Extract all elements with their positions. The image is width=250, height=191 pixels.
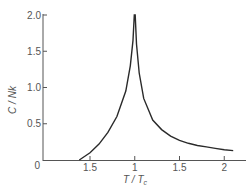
y-tick-label: 0.5 xyxy=(27,118,41,129)
y-ticks: 00.51.01.52.0 xyxy=(27,10,47,172)
x-tick-label: 1.5 xyxy=(83,162,97,173)
y-tick-label: 1.0 xyxy=(27,82,41,93)
x-tick-label: 2 xyxy=(221,162,227,173)
x-axis-title: T / Tc xyxy=(123,174,148,186)
x-ticks: 1.511.52 xyxy=(83,156,227,173)
y-tick-label: 1.5 xyxy=(27,46,41,57)
y-axis-title: C / Nk xyxy=(7,85,18,114)
specific-heat-chart: 00.51.01.52.0 1.511.52 C / Nk T / Tc xyxy=(0,0,250,191)
x-tick-label: 1 xyxy=(132,162,138,173)
x-tick-label: 1.5 xyxy=(173,162,187,173)
y-tick-label: 2.0 xyxy=(27,10,41,21)
y-tick-label: 0 xyxy=(34,160,40,171)
data-curve xyxy=(79,15,233,160)
